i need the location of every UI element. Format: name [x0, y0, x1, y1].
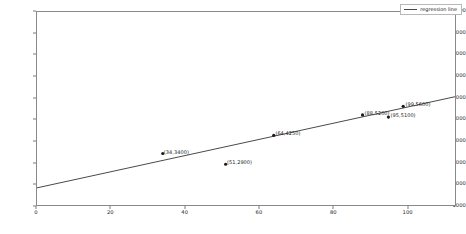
legend-label: regression line	[420, 7, 457, 12]
x-tick-label: 80	[330, 210, 337, 215]
point-label: (99,5600)	[405, 102, 430, 107]
x-tick-label: 20	[107, 210, 114, 215]
x-tick-mark	[110, 206, 111, 209]
x-tick-mark	[259, 206, 260, 209]
point-label: (64,4250)	[275, 131, 300, 136]
x-tick-mark	[333, 206, 334, 209]
point-label: (51,2900)	[227, 160, 252, 165]
x-tick-mark	[407, 206, 408, 209]
x-tick-mark	[36, 206, 37, 209]
chart-canvas	[37, 12, 455, 205]
point-label: (34,3400)	[164, 150, 189, 155]
x-tick-label: 40	[181, 210, 188, 215]
chart-figure: 1000200030004000500060007000800090001000…	[0, 0, 466, 234]
plot-area	[36, 11, 456, 206]
legend-line-swatch	[404, 9, 417, 10]
x-tick-label: 60	[256, 210, 263, 215]
data-point	[402, 105, 405, 108]
chart-legend: regression line	[400, 4, 462, 15]
x-tick-label: 100	[403, 210, 413, 215]
point-label: (95,5100)	[391, 113, 416, 118]
x-tick-mark	[184, 206, 185, 209]
data-point	[387, 115, 390, 118]
regression-line	[37, 97, 455, 188]
x-tick-label: 0	[34, 210, 37, 215]
point-label: (88,5200)	[365, 111, 390, 116]
